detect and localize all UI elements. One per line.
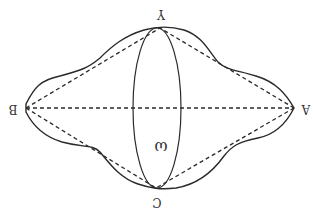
label-right: A — [301, 102, 311, 116]
label-top: Y — [156, 7, 166, 21]
label-bottom: C — [152, 195, 161, 209]
label-left: B — [8, 102, 17, 116]
diagram: Y C B A ω — [0, 0, 313, 212]
dashed-lines — [26, 28, 294, 188]
diagram-svg: Y C B A ω — [0, 0, 313, 212]
label-center: ω — [154, 138, 167, 157]
